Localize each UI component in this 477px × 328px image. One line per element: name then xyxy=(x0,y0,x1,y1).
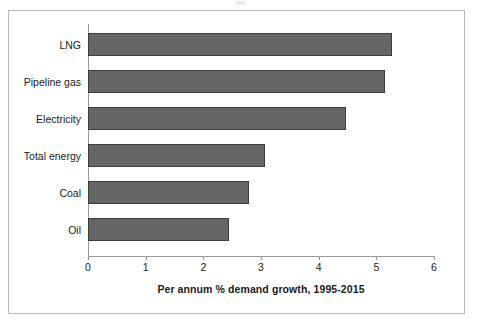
x-tick-label: 0 xyxy=(85,262,91,273)
x-tick-mark xyxy=(261,256,262,260)
x-tick-mark xyxy=(146,256,147,260)
top-edge-artifact xyxy=(236,1,245,5)
x-tick-label: 2 xyxy=(200,262,206,273)
plot-area: LNGPipeline gasElectricityTotal energyCo… xyxy=(88,24,434,256)
x-tick-mark xyxy=(88,256,89,260)
category-label: Oil xyxy=(68,224,81,235)
bar-row: Oil xyxy=(88,218,229,241)
bar-row: Total energy xyxy=(88,144,265,167)
x-tick-label: 1 xyxy=(143,262,149,273)
x-tick-label: 4 xyxy=(316,262,322,273)
category-label: Pipeline gas xyxy=(24,76,81,87)
x-axis-title: Per annum % demand growth, 1995-2015 xyxy=(88,283,434,295)
bar-row: Pipeline gas xyxy=(88,70,385,93)
x-tick-label: 3 xyxy=(258,262,264,273)
category-label: Coal xyxy=(59,187,81,198)
bar xyxy=(88,144,265,167)
category-label: LNG xyxy=(59,39,81,50)
x-tick-mark xyxy=(203,256,204,260)
category-label: Electricity xyxy=(36,113,81,124)
bar-row: Coal xyxy=(88,181,249,204)
bar xyxy=(88,218,229,241)
bar xyxy=(88,181,249,204)
x-tick-mark xyxy=(319,256,320,260)
x-tick-mark xyxy=(376,256,377,260)
bar-chart: LNGPipeline gasElectricityTotal energyCo… xyxy=(0,0,477,328)
bar xyxy=(88,107,346,130)
x-tick-mark xyxy=(434,256,435,260)
x-tick-label: 6 xyxy=(431,262,437,273)
x-tick-label: 5 xyxy=(373,262,379,273)
bar xyxy=(88,70,385,93)
bar-row: LNG xyxy=(88,33,392,56)
category-label: Total energy xyxy=(24,150,81,161)
bar xyxy=(88,33,392,56)
bar-row: Electricity xyxy=(88,107,346,130)
